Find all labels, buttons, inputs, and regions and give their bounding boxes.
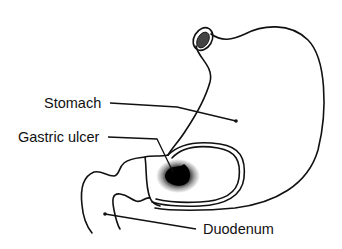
esophagus-opening xyxy=(189,24,217,54)
label-stomach: Stomach xyxy=(44,96,101,111)
stomach-pointer-dot xyxy=(234,119,238,123)
stomach-leader-line xyxy=(110,103,236,121)
duodenum-upper-wall xyxy=(82,157,146,233)
duodenum-lower-wall xyxy=(113,194,150,229)
anatomy-drawing xyxy=(0,0,342,249)
gastric-ulcer-lesion xyxy=(156,159,200,193)
stomach-ulcer-diagram: Stomach Gastric ulcer Duodenum xyxy=(0,0,342,249)
duodenum-pointer-dot xyxy=(103,212,107,216)
lesser-curvature xyxy=(168,46,211,155)
label-gastric-ulcer: Gastric ulcer xyxy=(18,130,99,145)
label-duodenum: Duodenum xyxy=(203,222,274,237)
